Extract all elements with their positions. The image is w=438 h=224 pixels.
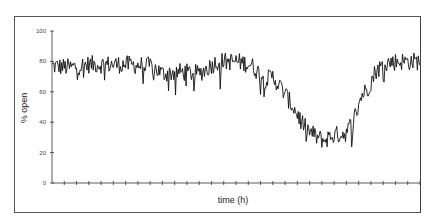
y-tick-label: 80 [39,58,46,64]
data-series-line [52,53,420,147]
y-tick-label: 0 [43,180,47,186]
y-tick-label: 60 [39,89,46,95]
x-axis-title: time (h) [218,195,249,205]
line-chart: 020406080100 % open time (h) [0,0,438,224]
y-axis: 020406080100 [36,28,54,186]
y-tick-label: 100 [36,28,47,34]
y-tick-label: 20 [39,150,46,156]
x-axis [52,181,420,185]
y-tick-label: 40 [39,119,46,125]
y-axis-title: % open [19,93,29,124]
